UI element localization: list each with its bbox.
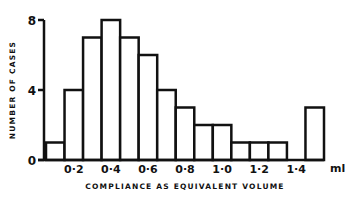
bar-0.3	[83, 38, 102, 161]
histogram-chart: 048 0·20·40·60·81·01·21·4 ml COMPLIANCE …	[0, 0, 348, 198]
bar-0.9	[194, 125, 213, 160]
bar-0.6	[139, 55, 158, 160]
y-tick-label-8: 8	[28, 14, 36, 28]
x-tick-label-0·8: 0·8	[175, 163, 195, 176]
x-tick-label-0·4: 0·4	[101, 163, 121, 176]
x-axis-title: COMPLIANCE AS EQUIVALENT VOLUME	[85, 182, 284, 191]
y-axis-title: NUMBER OF CASES	[8, 41, 17, 139]
x-unit-label: ml	[330, 162, 345, 175]
bar-0.5	[120, 38, 139, 161]
bar-0.4	[102, 20, 121, 160]
x-tick-label-0·2: 0·2	[64, 163, 84, 176]
x-tick-label-0·6: 0·6	[138, 163, 158, 176]
bar-1.1	[231, 143, 250, 161]
bar-0.8	[176, 108, 195, 161]
x-ticks-group: 0·20·40·60·81·01·21·4	[64, 163, 306, 176]
y-ticks-group: 048	[28, 14, 44, 168]
bar-0.1	[46, 143, 65, 161]
x-tick-label-1·4: 1·4	[286, 163, 306, 176]
bars-group	[46, 20, 324, 160]
bar-1.2	[250, 143, 269, 161]
bar-1.0	[213, 125, 232, 160]
x-tick-label-1·0: 1·0	[212, 163, 232, 176]
bar-0.2	[65, 90, 84, 160]
y-tick-label-0: 0	[28, 154, 36, 168]
bar-1.5	[305, 108, 324, 161]
y-tick-label-4: 4	[28, 84, 36, 98]
bar-1.3	[268, 143, 287, 161]
bar-0.7	[157, 90, 176, 160]
x-tick-label-1·2: 1·2	[249, 163, 269, 176]
